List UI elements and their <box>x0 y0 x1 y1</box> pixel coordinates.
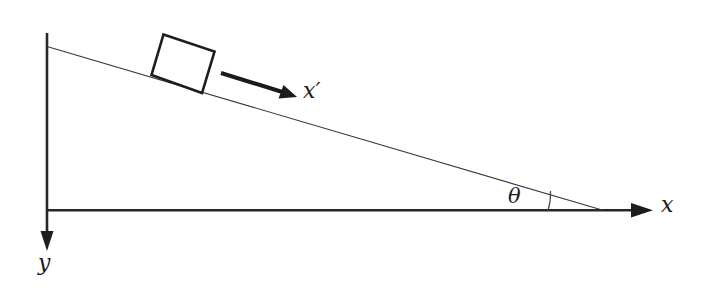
y-axis-arrowhead-icon <box>41 231 54 251</box>
diagram-canvas <box>0 0 713 305</box>
angle-theta-label: θ <box>508 186 521 207</box>
x-axis-arrowhead-icon <box>631 203 653 218</box>
x-axis-label: x <box>661 194 673 216</box>
physics-diagram-figure: x y x′ θ <box>0 0 713 305</box>
y-axis-group <box>41 33 54 251</box>
x-prime-vector-shaft <box>221 73 284 93</box>
x-axis-group <box>47 203 653 218</box>
y-axis-label: y <box>38 252 50 274</box>
x-prime-vector-group <box>221 73 297 99</box>
block-shape <box>152 35 215 94</box>
x-prime-arrowhead-icon <box>279 85 298 99</box>
x-prime-axis-label: x′ <box>303 80 320 102</box>
